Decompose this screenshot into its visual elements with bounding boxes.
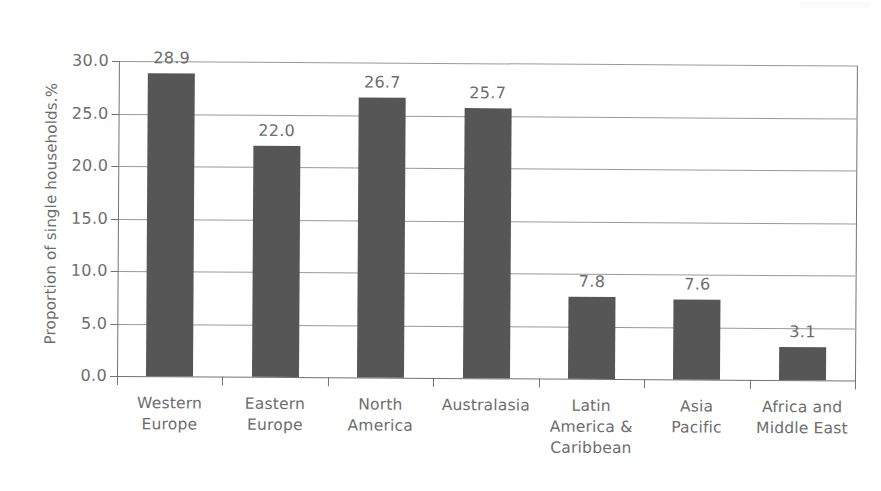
x-axis-tick-mark — [539, 379, 540, 388]
bar — [779, 347, 826, 380]
bar — [462, 108, 511, 378]
bar-value-label: 28.9 — [132, 48, 212, 67]
x-axis-tick-mark — [855, 380, 856, 389]
x-axis-tick-mark — [749, 380, 750, 389]
category-label-line: Latin — [531, 396, 651, 418]
bar-value-labels: 28.922.026.725.77.87.63.1 — [2, 0, 881, 5]
category-label-line: Europe — [109, 414, 229, 436]
bar — [357, 97, 406, 378]
y-axis-tick-label: 0.0 — [49, 366, 107, 385]
category-label-line: Eastern — [215, 394, 335, 416]
category-label-line: Australasia — [426, 395, 546, 417]
category-label-line: Middle East — [742, 418, 862, 440]
category-label-line: Western — [109, 393, 229, 415]
category-label-line: Pacific — [636, 417, 756, 439]
x-axis-category-label: NorthAmerica — [320, 394, 440, 437]
bar-value-label: 26.7 — [342, 72, 422, 91]
bar — [252, 146, 300, 377]
chart-ink-layer: Proportion of single households.% 30.025… — [0, 0, 881, 491]
bar-value-label: 7.8 — [552, 272, 632, 291]
category-label-line: Asia — [637, 396, 757, 418]
bar-value-label: 25.7 — [448, 83, 528, 102]
x-axis-tick-mark — [117, 376, 118, 385]
x-axis-category-label: Australasia — [426, 395, 546, 417]
y-axis-tick-label: 5.0 — [49, 313, 107, 332]
gridlines — [119, 61, 857, 66]
y-axis-tick-mark — [112, 113, 120, 114]
bar — [673, 300, 720, 380]
gridline — [119, 61, 857, 67]
x-axis-tick-mark — [222, 377, 223, 386]
y-axis-tick-label: 25.0 — [51, 103, 109, 122]
x-axis-category-label: WesternEurope — [109, 393, 229, 436]
category-label-line: Africa and — [742, 397, 862, 419]
bar-value-label: 7.6 — [657, 274, 737, 293]
y-axis-tick-label: 30.0 — [51, 51, 109, 70]
category-label-line: Europe — [215, 415, 335, 437]
x-axis-category-label: EasternEurope — [215, 394, 335, 437]
bar-chart: Proportion of single households.% 30.025… — [0, 0, 881, 491]
y-axis-tick-label: 15.0 — [50, 208, 108, 227]
y-axis-tick-mark — [111, 218, 119, 219]
bar-value-label: 22.0 — [237, 121, 317, 140]
x-axis-category-label: AsiaPacific — [636, 396, 756, 439]
category-label-line: Caribbean — [531, 438, 651, 460]
y-axis-tick-label: 20.0 — [50, 156, 108, 175]
y-axis-tick-labels: 30.025.020.015.010.05.00.0 — [2, 0, 881, 5]
y-axis-tick-mark — [111, 271, 119, 272]
x-axis-tick-mark — [433, 378, 434, 387]
x-axis-category-label: Africa andMiddle East — [742, 397, 862, 440]
category-label-line: America & — [531, 417, 651, 439]
x-axis-category-label: LatinAmerica &Caribbean — [531, 396, 651, 460]
category-label-line: America — [320, 415, 440, 437]
x-axis-category-labels: WesternEuropeEasternEuropeNorthAmericaAu… — [2, 0, 881, 5]
x-axis-tick-mark — [644, 379, 645, 388]
bar-value-label: 3.1 — [763, 322, 843, 341]
y-axis-tick-mark — [112, 61, 120, 62]
y-axis-tick-mark — [111, 166, 119, 167]
y-axis-tick-label: 10.0 — [50, 261, 108, 280]
plot-area — [117, 61, 857, 381]
bar — [146, 73, 195, 377]
category-label-line: North — [320, 394, 440, 416]
y-axis-tick-mark — [110, 323, 118, 324]
bar — [568, 297, 615, 379]
x-axis-tick-mark — [328, 377, 329, 386]
